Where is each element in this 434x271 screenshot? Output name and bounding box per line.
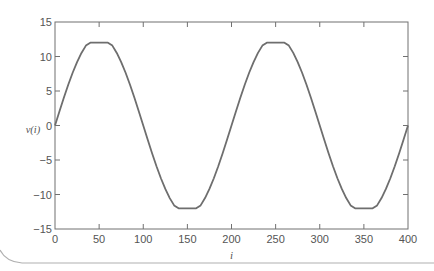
y-tick-label: 15	[40, 16, 52, 28]
x-tick-label: 0	[52, 233, 58, 245]
x-tick-label: 200	[222, 233, 240, 245]
y-tick-label: −15	[33, 223, 52, 235]
x-tick-label: 100	[134, 233, 152, 245]
x-tick-label: 50	[93, 233, 105, 245]
y-tick-label: 10	[40, 51, 52, 63]
x-tick-label: 250	[266, 233, 284, 245]
x-tick-label: 300	[311, 233, 329, 245]
series-line-v	[55, 43, 408, 209]
x-axis-ticks: 050100150200250300350400	[52, 22, 417, 245]
line-chart: 050100150200250300350400 151050−5−10−15 …	[0, 0, 434, 271]
page-border-decoration	[0, 250, 434, 263]
x-tick-label: 400	[399, 233, 417, 245]
y-tick-label: −5	[39, 154, 52, 166]
y-tick-label: 5	[46, 85, 52, 97]
y-axis-ticks: 151050−5−10−15	[33, 16, 408, 235]
y-tick-label: −10	[33, 189, 52, 201]
x-tick-label: 150	[178, 233, 196, 245]
x-tick-label: 350	[355, 233, 373, 245]
y-tick-label: 0	[46, 120, 52, 132]
y-axis-label: v(i)	[26, 124, 41, 136]
x-axis-label: i	[230, 249, 233, 261]
